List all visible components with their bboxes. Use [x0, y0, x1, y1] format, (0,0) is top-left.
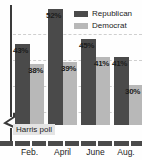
bar-label-republican-april: 52%: [46, 11, 61, 20]
axis-tick: [63, 141, 65, 146]
bar-republican-feb: [15, 44, 30, 125]
source-note: Harris poll: [13, 124, 55, 135]
bar-label-democrat-june: 41%: [94, 59, 109, 68]
bar-label-republican-june: 45%: [79, 41, 94, 50]
axis-tick: [79, 141, 81, 146]
legend-swatch-republican: [74, 11, 88, 17]
bar-label-republican-feb: 43%: [13, 46, 28, 55]
plot-area: 43% 38% 52% 39% 45% 41% 41% 30% Republic…: [0, 0, 142, 144]
bar-label-democrat-april: 39%: [61, 64, 76, 73]
axis-tick: [13, 141, 15, 146]
axis-tick: [46, 141, 48, 146]
legend: Republican Democrat: [74, 8, 132, 32]
axis-tick: [96, 141, 98, 146]
legend-label-republican: Republican: [92, 9, 132, 18]
bar-label-democrat-aug: 30%: [125, 87, 140, 96]
axis-tick: [112, 141, 114, 146]
x-axis-band: [0, 141, 142, 146]
axis-tick: [30, 141, 32, 146]
bar-label-republican-aug: 41%: [112, 59, 127, 68]
axis-tick: [129, 141, 131, 146]
category-label-aug: Aug.: [110, 147, 142, 157]
category-label-june: June: [79, 147, 112, 157]
category-label-april: April: [46, 147, 79, 157]
legend-swatch-democrat: [74, 23, 88, 29]
y-axis: [10, 5, 12, 117]
gridline: [13, 34, 142, 35]
category-label-feb: Feb.: [13, 147, 46, 157]
bar-chart: 43% 38% 52% 39% 45% 41% 41% 30% Republic…: [0, 0, 142, 160]
bar-label-democrat-feb: 38%: [28, 66, 43, 75]
legend-item-republican: Republican: [74, 8, 132, 19]
bar-republican-june: [81, 39, 96, 125]
legend-label-democrat: Democrat: [92, 21, 127, 30]
legend-item-democrat: Democrat: [74, 20, 132, 31]
